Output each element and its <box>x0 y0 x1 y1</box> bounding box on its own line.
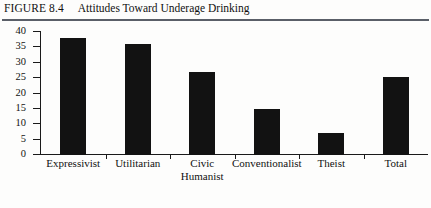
x-axis-category-label: Conventionalist <box>232 157 302 170</box>
x-axis-label-line: Utilitarian <box>115 157 160 169</box>
x-axis-category-label: Expressivist <box>46 157 100 170</box>
bar <box>60 38 86 155</box>
figure-title: Attitudes Toward Underage Drinking <box>64 0 250 14</box>
bar <box>189 72 215 155</box>
x-axis-category-label: Theist <box>318 157 346 170</box>
x-axis-label-line: Conventionalist <box>232 157 302 169</box>
bar <box>318 133 344 155</box>
x-axis-label-line: Theist <box>318 157 346 169</box>
plot-area: 0510152025303540 <box>0 24 431 174</box>
bar <box>383 77 409 155</box>
x-axis-label-line: Civic <box>190 157 214 169</box>
header-divider <box>2 19 429 21</box>
bar <box>254 109 280 155</box>
bar-series <box>0 24 431 159</box>
figure-container: FIGURE 8.4 Attitudes Toward Underage Dri… <box>0 0 431 208</box>
x-axis-category-label: Utilitarian <box>115 157 160 170</box>
x-axis-label-line: Total <box>385 157 407 169</box>
x-axis-label-line: Humanist <box>181 170 224 183</box>
x-axis-category-labels: ExpressivistUtilitarianCivicHumanistConv… <box>0 157 431 191</box>
x-axis-label-line: Expressivist <box>46 157 100 169</box>
figure-number: FIGURE 8.4 <box>0 0 64 14</box>
x-axis-category-label: CivicHumanist <box>181 157 224 182</box>
x-axis-category-label: Total <box>385 157 407 170</box>
bar <box>125 44 151 155</box>
